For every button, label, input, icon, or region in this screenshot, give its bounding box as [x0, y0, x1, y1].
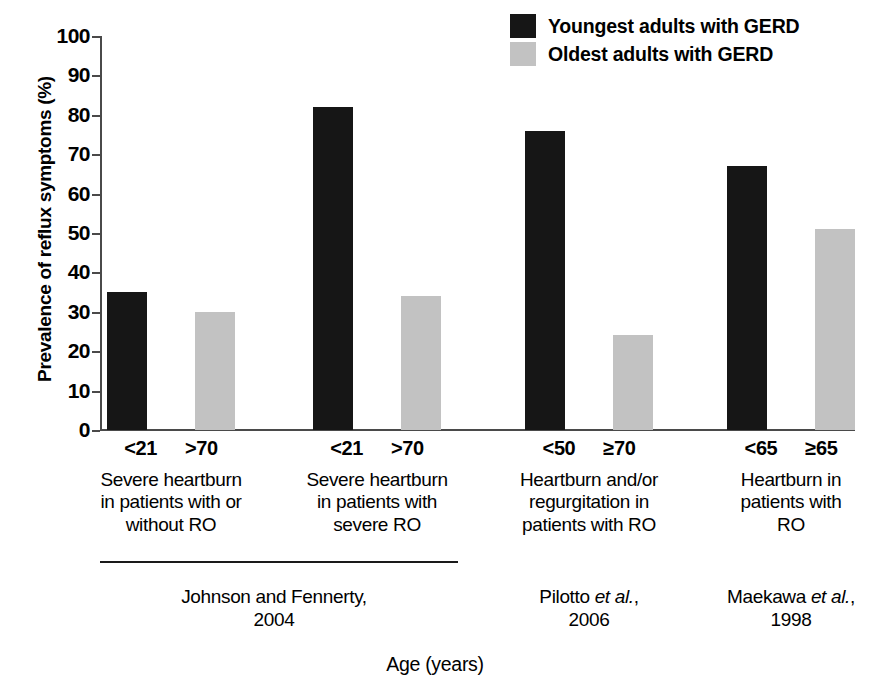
- age-pair-group-4: <65≥65: [707, 437, 870, 460]
- y-tick-mark: [92, 430, 100, 432]
- y-axis-line: [100, 36, 102, 430]
- study-et-al: et al.: [595, 586, 634, 607]
- y-tick-label: 40: [30, 261, 90, 282]
- age-label-old: ≥70: [603, 437, 635, 459]
- study-citation-1: Johnson and Fennerty,2004: [124, 586, 424, 632]
- y-tick-mark: [92, 351, 100, 353]
- group-description-line: patients with RO: [496, 514, 682, 536]
- y-tick-label: 60: [30, 183, 90, 204]
- y-tick-mark: [92, 75, 100, 77]
- y-tick-mark: [92, 36, 100, 38]
- y-tick-mark: [92, 312, 100, 314]
- x-axis-title: Age (years): [0, 653, 870, 676]
- study-year: 2004: [124, 609, 424, 632]
- group-description-line: in patients with or: [78, 491, 264, 513]
- y-tick-mark: [92, 194, 100, 196]
- bar-oldest-group-4: [815, 229, 855, 430]
- bar-youngest-group-4: [727, 166, 767, 430]
- y-tick-label: 80: [30, 104, 90, 125]
- bar-youngest-group-1: [107, 292, 147, 430]
- group-description-line: RO: [698, 514, 870, 536]
- bar-oldest-group-3: [613, 335, 653, 430]
- y-tick-label: 100: [30, 25, 90, 46]
- legend-label-youngest: Youngest adults with GERD: [548, 15, 799, 38]
- age-label-young: <65: [745, 437, 778, 459]
- group-description-line: Severe heartburn: [78, 469, 264, 491]
- age-label-young: <50: [543, 437, 576, 459]
- study-et-al: et al.: [811, 586, 850, 607]
- group-description-line: in patients with: [284, 491, 470, 513]
- group-description-3: Heartburn and/orregurgitation inpatients…: [496, 469, 682, 536]
- plot-area: 0102030405060708090100: [100, 36, 855, 430]
- bar-oldest-group-2: [401, 296, 441, 430]
- study-group-underline: [100, 561, 458, 563]
- y-tick-mark: [92, 233, 100, 235]
- y-tick-label: 90: [30, 64, 90, 85]
- y-tick-mark: [92, 115, 100, 117]
- age-pair-group-1: <21>70: [87, 437, 255, 460]
- bar-youngest-group-3: [525, 131, 565, 430]
- group-description-line: Heartburn and/or: [496, 469, 682, 491]
- group-description-1: Severe heartburnin patients with orwitho…: [78, 469, 264, 536]
- study-authors: Johnson and Fennerty,: [124, 586, 424, 609]
- study-authors: Maekawa et al.,: [641, 586, 870, 609]
- age-label-young: <21: [124, 437, 157, 459]
- study-citation-3: Maekawa et al.,1998: [641, 586, 870, 632]
- y-tick-label: 70: [30, 143, 90, 164]
- bar-youngest-group-2: [313, 107, 353, 430]
- y-tick-label: 30: [30, 301, 90, 322]
- group-description-line: regurgitation in: [496, 491, 682, 513]
- y-tick-label: 50: [30, 222, 90, 243]
- y-tick-label: 20: [30, 340, 90, 361]
- age-label-old: >70: [391, 437, 424, 459]
- age-label-old: >70: [185, 437, 218, 459]
- y-tick-label: 0: [30, 419, 90, 440]
- group-description-line: patients with: [698, 491, 870, 513]
- y-tick-label: 10: [30, 380, 90, 401]
- x-axis-categories: <21>70Severe heartburnin patients with o…: [100, 437, 855, 567]
- y-tick-mark: [92, 154, 100, 156]
- age-pair-group-3: <50≥70: [505, 437, 673, 460]
- study-year: 1998: [641, 609, 870, 632]
- group-description-4: Heartburn inpatients withRO: [698, 469, 870, 536]
- group-description-line: without RO: [78, 514, 264, 536]
- y-tick-mark: [92, 391, 100, 393]
- group-description-line: Severe heartburn: [284, 469, 470, 491]
- group-description-line: severe RO: [284, 514, 470, 536]
- legend-item-youngest: Youngest adults with GERD: [510, 14, 799, 38]
- group-description-line: Heartburn in: [698, 469, 870, 491]
- age-label-old: ≥65: [805, 437, 837, 459]
- age-label-young: <21: [330, 437, 363, 459]
- legend-swatch-youngest: [510, 14, 536, 38]
- bar-oldest-group-1: [195, 312, 235, 430]
- y-tick-mark: [92, 272, 100, 274]
- age-pair-group-2: <21>70: [293, 437, 461, 460]
- group-description-2: Severe heartburnin patients withsevere R…: [284, 469, 470, 536]
